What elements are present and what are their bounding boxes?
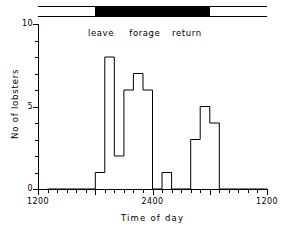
figure-canvas: leave forage return 0510120024001200 No … bbox=[0, 0, 282, 240]
x-axis-title: Time of day bbox=[121, 213, 184, 223]
y-axis-title: No of lobsters bbox=[10, 68, 20, 138]
histogram-series bbox=[0, 0, 282, 240]
histogram-outline bbox=[48, 57, 268, 189]
